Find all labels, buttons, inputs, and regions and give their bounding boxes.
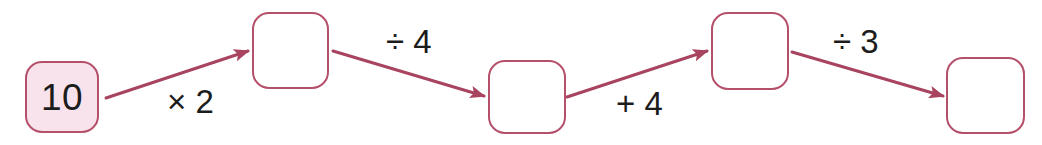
operation-label-multiply-2: × 2 xyxy=(167,85,214,118)
value-box-1-label: 10 xyxy=(41,79,83,116)
value-box-1[interactable]: 10 xyxy=(25,61,99,133)
operation-label-divide-3: ÷ 3 xyxy=(833,25,879,58)
value-box-4[interactable] xyxy=(711,12,789,90)
operation-label-divide-4: ÷ 4 xyxy=(386,25,432,58)
operation-label-add-4: + 4 xyxy=(616,87,663,120)
value-box-3[interactable] xyxy=(488,60,566,134)
value-box-2[interactable] xyxy=(252,12,329,89)
value-box-5[interactable] xyxy=(946,57,1025,134)
function-machine-diagram: 10 × 2 ÷ 4 + 4 ÷ 3 xyxy=(0,0,1042,145)
